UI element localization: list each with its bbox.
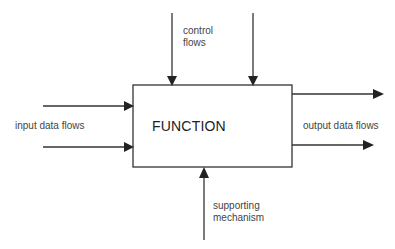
control-arrow-2: [248, 13, 258, 86]
arrowhead-right-icon: [373, 89, 384, 99]
input-arrow-2: [43, 142, 134, 152]
input-data-flows-label: input data flows: [15, 120, 85, 132]
output-data-flows-label: output data flows: [303, 120, 379, 132]
control-flows-label: control flows: [183, 25, 213, 49]
arrowhead-up-icon: [199, 167, 209, 178]
output-arrow-2: [292, 140, 374, 150]
function-label: FUNCTION: [152, 118, 226, 134]
control-arrow-1: [167, 13, 177, 86]
arrowhead-right-icon: [363, 140, 374, 150]
input-arrow-1: [43, 101, 134, 111]
supporting-mechanism-label: supporting mechanism: [213, 200, 264, 224]
output-arrow-1: [292, 89, 384, 99]
mechanism-arrow: [199, 167, 209, 240]
